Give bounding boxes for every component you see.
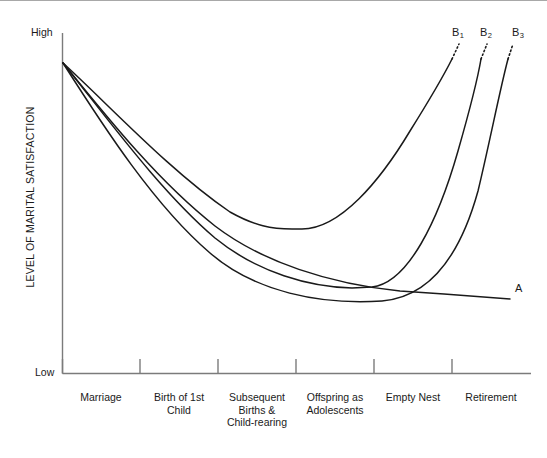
curve-b2-dotted-extension — [481, 44, 487, 59]
y-axis-title: LEVEL OF MARITAL SATISFACTION — [24, 97, 36, 297]
curve-label-b2-base: B — [480, 26, 487, 38]
curve-label-b1: B1 — [452, 26, 464, 38]
x-category-label-birth-of-1st-child: Birth of 1stChild — [134, 391, 224, 416]
curve-label-b3-subscript: 3 — [520, 31, 524, 40]
curve-b1-path — [63, 59, 452, 229]
curve-a-path — [63, 63, 510, 299]
curve-b3-dotted-extension — [508, 44, 513, 59]
curve-label-b2: B2 — [480, 26, 492, 38]
x-category-label-marriage: Marriage — [56, 391, 146, 404]
curve-label-b3: B3 — [512, 26, 524, 38]
curve-label-b2-subscript: 2 — [488, 31, 492, 40]
y-axis-low-label: Low — [35, 366, 54, 378]
chart-plot-area — [0, 1, 547, 458]
marital-satisfaction-chart: High Low LEVEL OF MARITAL SATISFACTION A… — [0, 0, 547, 458]
curve-b1-dotted-extension — [452, 44, 459, 59]
x-category-label-offspring-as-adolescents: Offspring asAdolescents — [290, 391, 380, 416]
curve-label-b1-subscript: 1 — [460, 31, 464, 40]
y-axis-high-label: High — [31, 26, 53, 38]
curve-label-b1-base: B — [452, 26, 459, 38]
x-category-label-retirement: Retirement — [446, 391, 536, 404]
curve-label-a: A — [515, 282, 522, 294]
curve-b2-path — [63, 59, 481, 288]
x-category-label-subsequent-births: SubsequentBirths &Child-rearing — [212, 391, 302, 429]
curve-label-b3-base: B — [512, 26, 519, 38]
x-category-label-empty-nest: Empty Nest — [368, 391, 458, 404]
